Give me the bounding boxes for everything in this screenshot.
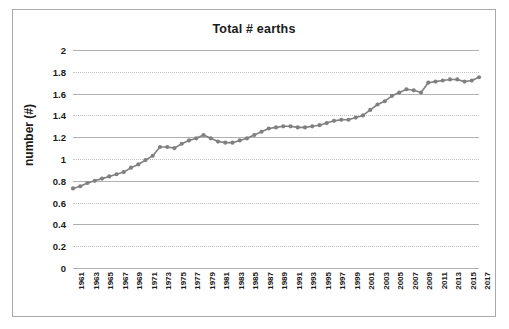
- data-point: [477, 75, 481, 79]
- x-axis-tick-label: 1989: [280, 272, 289, 290]
- data-point: [187, 138, 191, 142]
- data-point: [354, 115, 358, 119]
- data-point: [216, 139, 220, 143]
- y-axis-tick-label: 0.6: [53, 197, 66, 208]
- x-axis-tick-label: 2011: [440, 272, 449, 289]
- data-point: [209, 136, 213, 140]
- x-axis-tick-label: 2005: [396, 272, 405, 290]
- data-point: [317, 123, 321, 127]
- x-axis-tick-label: 2001: [367, 272, 376, 290]
- data-point: [390, 94, 394, 98]
- x-axis-tick-label: 1985: [251, 272, 260, 290]
- y-axis-tick-label: 1.6: [53, 88, 66, 99]
- data-point: [433, 80, 437, 84]
- data-point: [158, 145, 162, 149]
- y-axis-tick-label: 2: [61, 45, 66, 56]
- x-axis-tick-label: 1961: [77, 272, 86, 290]
- data-point: [462, 80, 466, 84]
- data-point: [180, 142, 184, 146]
- x-axis-tick-label: 1983: [237, 272, 246, 290]
- x-axis-tick-label: 2007: [411, 272, 420, 290]
- data-point: [419, 90, 423, 94]
- x-axis-tick-label: 1979: [208, 272, 217, 290]
- data-point: [151, 154, 155, 158]
- y-axis-tick-label: 1.8: [53, 66, 66, 77]
- data-point: [346, 118, 350, 122]
- y-axis-tick-label: 0.8: [53, 175, 66, 186]
- data-point: [122, 170, 126, 174]
- gridline: [73, 268, 479, 269]
- data-point: [448, 77, 452, 81]
- x-axis-tick-label: 1995: [324, 272, 333, 290]
- data-point: [339, 118, 343, 122]
- data-point: [288, 124, 292, 128]
- data-point: [85, 181, 89, 185]
- data-point: [223, 141, 227, 145]
- data-point: [172, 146, 176, 150]
- data-point: [310, 124, 314, 128]
- data-point: [375, 102, 379, 106]
- data-point: [281, 124, 285, 128]
- y-axis-tick-label: 0.4: [53, 219, 66, 230]
- x-axis-tick-label: 2009: [425, 272, 434, 290]
- y-axis-tick-label: 1.4: [53, 110, 66, 121]
- x-axis-tick-label: 1975: [179, 272, 188, 290]
- data-point: [93, 179, 97, 183]
- y-axis-tick-label: 0: [61, 263, 66, 274]
- x-axis-tick-label: 1987: [266, 272, 275, 290]
- data-point: [267, 126, 271, 130]
- data-point: [194, 136, 198, 140]
- data-point: [404, 87, 408, 91]
- y-axis-label: number (#): [22, 75, 36, 195]
- data-point: [361, 113, 365, 117]
- data-point: [332, 119, 336, 123]
- data-point: [296, 125, 300, 129]
- x-axis-tick-label: 1963: [92, 272, 101, 290]
- x-axis-tick-label: 2013: [454, 272, 463, 290]
- x-axis-tick-label: 1991: [295, 272, 304, 290]
- x-axis-tick-label: 1981: [222, 272, 231, 290]
- x-axis-tick-label: 1993: [309, 272, 318, 290]
- x-axis-tick-label: 1999: [353, 272, 362, 290]
- x-axis-tick-label: 1971: [150, 272, 159, 290]
- data-point: [245, 136, 249, 140]
- data-point: [455, 77, 459, 81]
- data-point: [238, 138, 242, 142]
- data-point: [71, 186, 75, 190]
- x-axis-tick-label: 2015: [469, 272, 478, 290]
- data-point: [201, 133, 205, 137]
- data-point: [230, 141, 234, 145]
- y-axis-tick-label: 0.2: [53, 241, 66, 252]
- x-axis-tick-label: 1967: [121, 272, 130, 290]
- x-axis-tick-label: 1965: [106, 272, 115, 290]
- data-point: [143, 158, 147, 162]
- data-point: [129, 166, 133, 170]
- y-axis-tick-label: 1.2: [53, 132, 66, 143]
- plot-area: 00.20.40.60.811.21.41.61.82 196119631965…: [73, 50, 479, 268]
- data-point: [426, 81, 430, 85]
- x-axis-tick-label: 1973: [164, 272, 173, 290]
- data-point: [165, 145, 169, 149]
- data-point: [383, 99, 387, 103]
- data-point: [136, 162, 140, 166]
- data-point: [274, 125, 278, 129]
- data-point: [325, 121, 329, 125]
- data-point: [397, 90, 401, 94]
- x-axis-tick-label: 1997: [338, 272, 347, 290]
- data-point: [412, 88, 416, 92]
- chart-title: Total # earths: [13, 22, 495, 36]
- x-axis-tick-label: 1969: [135, 272, 144, 290]
- x-axis-tick-label: 1977: [193, 272, 202, 290]
- data-point: [259, 130, 263, 134]
- data-point: [441, 78, 445, 82]
- data-point: [470, 78, 474, 82]
- data-point: [368, 108, 372, 112]
- data-point: [100, 177, 104, 181]
- chart-container: Total # earths number (#) 00.20.40.60.81…: [12, 9, 496, 317]
- x-axis-tick-label: 2017: [483, 272, 492, 290]
- data-point: [114, 172, 118, 176]
- data-point: [78, 184, 82, 188]
- data-series: [73, 50, 479, 268]
- data-point: [252, 133, 256, 137]
- y-axis-tick-label: 1: [61, 154, 66, 165]
